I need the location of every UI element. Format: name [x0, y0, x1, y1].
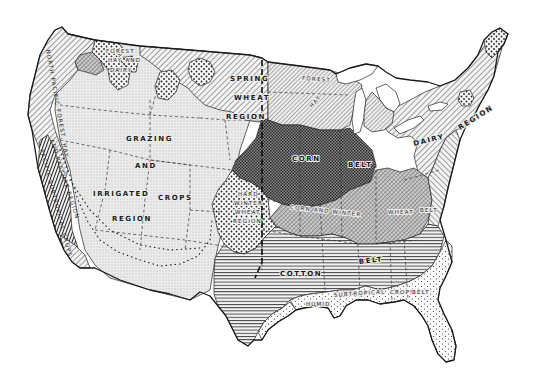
label-corn: CORN [292, 155, 321, 163]
label-cww-wheat: WHEAT [388, 209, 414, 215]
label-winter: WINTER [234, 200, 263, 206]
label-humid: HUMID [306, 301, 331, 307]
label-crops: CROPS [158, 194, 193, 202]
label-corn-belt: BELT [348, 161, 373, 169]
label-grazing-region: REGION [112, 215, 152, 223]
label-grazing: GRAZING [126, 135, 173, 143]
label-hard-region: REGION [233, 218, 262, 224]
label-spring-wheat: WHEAT [234, 94, 270, 102]
label-hard-wheat: WHEAT [235, 209, 261, 215]
label-subtrop-belt: BELT [412, 289, 430, 295]
label-forest: FOREST [106, 48, 135, 54]
label-forest-hay: HAY AND [108, 57, 141, 63]
label-forest-dairy: DAIRY [110, 67, 132, 73]
label-cww-belt: BELT [420, 207, 438, 213]
label-spring: SPRING [230, 75, 269, 83]
label-irrigated: IRRIGATED [93, 190, 149, 198]
agricultural-regions-map: GRAZING AND IRRIGATED CROPS REGION SPRIN… [0, 0, 544, 377]
label-hard: HARD [238, 191, 259, 197]
label-spring-region: REGION [226, 113, 266, 121]
label-cotton: COTTON [280, 270, 322, 278]
label-grazing-and: AND [135, 162, 157, 170]
lake-superior [336, 64, 378, 84]
